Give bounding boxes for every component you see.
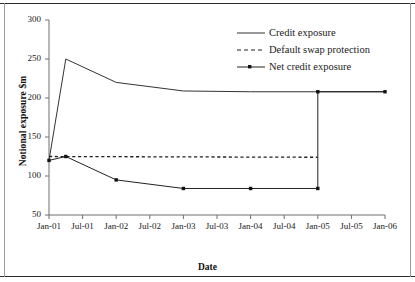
chart-legend: Credit exposure Default swap protection … (236, 24, 370, 75)
data-point-marker (47, 159, 50, 162)
series-layer (47, 59, 386, 190)
solid-line-key (236, 27, 266, 39)
data-point-marker (383, 90, 386, 93)
marker-line-key (236, 61, 266, 73)
legend-item-credit-exposure[interactable]: Credit exposure (236, 24, 370, 41)
data-point-marker (316, 90, 319, 93)
figure-container: Notional exposure $m Date 50100150200250… (0, 0, 415, 282)
series-line-net-credit-exposure (49, 92, 385, 189)
legend-label-net-credit-exposure: Net credit exposure (266, 61, 351, 72)
data-point-marker (316, 187, 319, 190)
legend-label-default-swap-protection: Default swap protection (266, 44, 370, 55)
legend-item-default-swap-protection[interactable]: Default swap protection (236, 41, 370, 58)
data-point-marker (182, 187, 185, 190)
data-point-marker (249, 187, 252, 190)
data-point-marker (64, 155, 67, 158)
legend-item-net-credit-exposure[interactable]: Net credit exposure (236, 58, 370, 75)
dashed-line-key (236, 44, 266, 56)
data-point-marker (115, 178, 118, 181)
series-line-default-swap-protection (49, 157, 318, 158)
legend-label-credit-exposure: Credit exposure (266, 27, 336, 38)
